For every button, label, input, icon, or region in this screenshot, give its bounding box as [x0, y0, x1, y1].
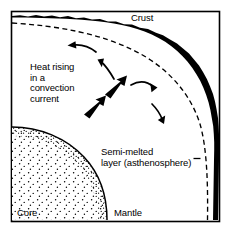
label-crust: Crust: [131, 13, 153, 24]
label-mantle: Mantle: [114, 208, 142, 219]
label-core: Core: [17, 208, 37, 219]
label-heat-rising-convection-current: Heat rising in a convection current: [30, 62, 74, 104]
earth-diagram-svg: [0, 0, 231, 238]
earth-cross-section-diagram: Crust Heat rising in a convection curren…: [0, 0, 231, 238]
label-semi-melted-asthenosphere: Semi-melted layer (asthenosphere): [101, 147, 191, 168]
